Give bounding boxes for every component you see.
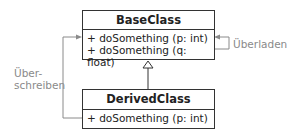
base-method-1: + doSomething (p: int) — [87, 32, 214, 44]
derived-class-name: DerivedClass — [83, 90, 214, 110]
base-class-methods: + doSomething (p: int) + doSomething (q:… — [83, 30, 214, 68]
override-label-line2: schreiben — [14, 79, 65, 91]
base-method-2: + doSomething (q: float) — [87, 44, 214, 68]
base-class-box: BaseClass + doSomething (p: int) + doSom… — [82, 10, 215, 60]
override-label-line1: Über- — [14, 67, 65, 79]
override-label: Über- schreiben — [14, 67, 65, 91]
base-class-name: BaseClass — [83, 11, 214, 30]
overload-label: Überladen — [233, 38, 287, 50]
derived-class-box: DerivedClass + doSomething (p: int) — [82, 89, 215, 129]
override-connector — [63, 37, 82, 118]
derived-method-1: + doSomething (p: int) — [87, 112, 214, 124]
derived-class-methods: + doSomething (p: int) — [83, 110, 214, 124]
